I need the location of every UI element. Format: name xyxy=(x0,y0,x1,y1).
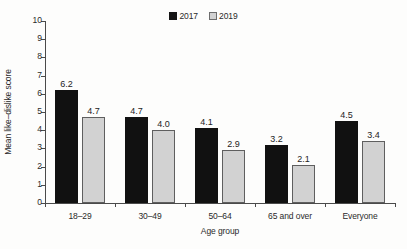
bar-value-label: 3.2 xyxy=(270,134,283,144)
category-label-3: 65 and over xyxy=(268,211,312,221)
plot-area: 012345678910 6.24.74.74.04.12.93.22.14.5… xyxy=(45,21,395,203)
legend-label-2017: 2017 xyxy=(179,12,198,21)
y-tick-label: 6 xyxy=(37,88,42,99)
y-axis-title: Mean like–dislike score xyxy=(2,21,14,203)
category-label-4: Everyone xyxy=(342,211,377,221)
bar-2017-3: 3.2 xyxy=(265,145,288,203)
bar-value-label: 4.0 xyxy=(157,119,170,129)
bar-2017-2: 4.1 xyxy=(195,128,218,203)
y-tick-label: 3 xyxy=(37,142,42,153)
bar-value-label: 4.7 xyxy=(130,106,143,116)
y-tick-label: 7 xyxy=(37,70,42,81)
legend-label-2019: 2019 xyxy=(219,12,238,21)
x-tick-mark xyxy=(395,203,396,207)
bar-2019-4: 3.4 xyxy=(362,141,385,203)
y-tick-label: 5 xyxy=(37,106,42,117)
x-tick-mark xyxy=(255,203,256,207)
y-tick-label: 0 xyxy=(37,197,42,208)
y-tick-label: 1 xyxy=(37,179,42,190)
category-label-0: 18–29 xyxy=(68,211,91,221)
y-tick-label: 4 xyxy=(37,124,42,135)
bar-2017-4: 4.5 xyxy=(335,121,358,203)
y-axis-line xyxy=(45,21,46,203)
bar-value-label: 6.2 xyxy=(60,79,73,89)
legend-swatch-2019-icon xyxy=(209,12,217,20)
bar-2019-3: 2.1 xyxy=(292,165,315,203)
x-tick-mark xyxy=(185,203,186,207)
x-tick-mark xyxy=(325,203,326,207)
chart-legend: 2017 2019 xyxy=(0,12,407,21)
x-tick-mark xyxy=(115,203,116,207)
bar-value-label: 2.9 xyxy=(227,139,240,149)
y-tick-label: 10 xyxy=(33,15,42,26)
bar-2019-1: 4.0 xyxy=(152,130,175,203)
bar-value-label: 4.1 xyxy=(200,117,213,127)
bar-2017-1: 4.7 xyxy=(125,117,148,203)
x-tick-mark xyxy=(45,203,46,207)
x-axis-line xyxy=(45,203,395,204)
legend-swatch-2017-icon xyxy=(169,12,177,20)
x-axis-title: Age group xyxy=(45,226,395,236)
bar-value-label: 4.5 xyxy=(340,110,353,120)
bar-value-label: 2.1 xyxy=(297,154,310,164)
y-tick-label: 2 xyxy=(37,161,42,172)
bar-2019-0: 4.7 xyxy=(82,117,105,203)
category-label-2: 50–64 xyxy=(208,211,231,221)
bar-2019-2: 2.9 xyxy=(222,150,245,203)
bar-chart-figure: 2017 2019 Mean like–dislike score 012345… xyxy=(0,0,407,249)
bar-value-label: 3.4 xyxy=(367,130,380,140)
legend-entry-2017: 2017 xyxy=(169,12,198,21)
y-tick-label: 8 xyxy=(37,51,42,62)
legend-entry-2019: 2019 xyxy=(209,12,238,21)
category-label-1: 30–49 xyxy=(138,211,161,221)
bar-2017-0: 6.2 xyxy=(55,90,78,203)
bar-value-label: 4.7 xyxy=(87,106,100,116)
y-tick-label: 9 xyxy=(37,33,42,44)
